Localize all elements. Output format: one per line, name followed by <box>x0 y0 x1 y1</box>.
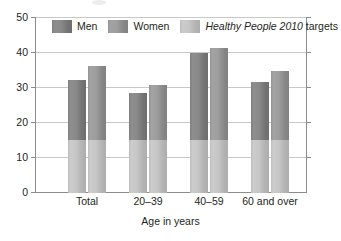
target-band-segment <box>251 140 269 193</box>
y-axis-label-10: 10 <box>4 152 28 163</box>
target-band-segment <box>68 140 86 193</box>
target-band-segment <box>88 140 106 193</box>
y-tick-right-50 <box>307 17 311 18</box>
legend-swatch-men-icon <box>52 20 72 33</box>
bar-men-20-39 <box>129 93 147 193</box>
target-band-segment <box>271 140 289 193</box>
bar-chart: 50 40 30 20 10 0 Total 20–39 40–59 60 an… <box>0 0 341 241</box>
legend-item-women: Women <box>108 20 169 33</box>
bar-men-60-and-over <box>251 82 269 193</box>
y-axis-label-20: 20 <box>4 117 28 128</box>
legend-label-targets: Healthy People 2010 targets <box>205 21 338 32</box>
chart-legend: Men Women Healthy People 2010 targets <box>52 20 341 33</box>
bar-women-60-and-over <box>271 71 289 193</box>
bar-women-20-39 <box>149 85 167 193</box>
target-band-segment <box>149 140 167 193</box>
target-band-segment <box>129 140 147 193</box>
legend-label-women: Women <box>133 21 169 32</box>
y-tick-right-40 <box>307 52 311 53</box>
target-band-segment <box>210 140 228 193</box>
y-tick-right-10 <box>307 157 311 158</box>
y-axis-label-50: 50 <box>4 12 28 23</box>
legend-swatch-women-icon <box>108 20 128 33</box>
y-tick-right-20 <box>307 122 311 123</box>
target-band-segment <box>190 140 208 193</box>
bar-men-40-59 <box>190 53 208 193</box>
bar-women-40-59 <box>210 48 228 193</box>
legend-item-targets: Healthy People 2010 targets <box>180 20 338 33</box>
y-tick-right-30 <box>307 87 311 88</box>
plot-area <box>35 17 307 193</box>
legend-label-men: Men <box>77 21 97 32</box>
crop-artifact <box>92 0 106 5</box>
x-axis-label-60-and-over: 60 and over <box>225 196 315 207</box>
x-axis-title: Age in years <box>0 215 341 227</box>
bar-women-total <box>88 66 106 193</box>
y-axis-label-40: 40 <box>4 47 28 58</box>
y-axis-label-30: 30 <box>4 82 28 93</box>
y-axis-label-0: 0 <box>4 187 28 198</box>
legend-swatch-targets-icon <box>180 20 200 33</box>
legend-item-men: Men <box>52 20 97 33</box>
bar-men-total <box>68 80 86 193</box>
